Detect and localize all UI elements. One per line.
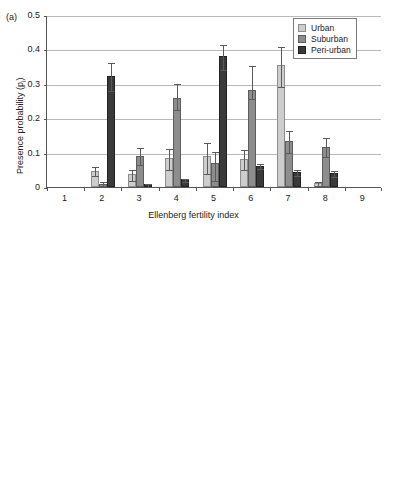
error-bar-cap-bottom xyxy=(166,170,173,171)
error-bar-cap-bottom xyxy=(249,99,256,100)
error-bar-cap-bottom xyxy=(108,91,115,92)
error-bar-cap-bottom xyxy=(278,87,285,88)
error-bar-cap-bottom xyxy=(174,110,181,111)
x-axis-title: Ellenberg fertility index xyxy=(0,210,361,220)
error-bar-cap-top xyxy=(182,179,189,180)
y-tick-mark xyxy=(44,50,47,51)
x-tick-mark xyxy=(381,188,382,191)
x-tick-label: 3 xyxy=(127,193,151,203)
legend-swatch-urban-icon xyxy=(298,24,306,32)
error-bar xyxy=(326,138,327,157)
x-tick-label: 7 xyxy=(276,193,300,203)
legend-label: Suburban xyxy=(311,34,348,44)
x-tick-mark xyxy=(345,188,346,191)
bar-periurban xyxy=(219,56,227,187)
error-bar xyxy=(169,149,170,170)
error-bar-cap-top xyxy=(323,138,330,139)
legend-item-periurban: Peri-urban xyxy=(298,44,351,55)
error-bar-cap-top xyxy=(145,184,152,185)
error-bar-cap-bottom xyxy=(294,176,301,177)
error-bar xyxy=(207,143,208,173)
error-bar-cap-bottom xyxy=(331,177,338,178)
error-bar xyxy=(111,63,112,91)
error-bar-cap-bottom xyxy=(212,181,219,182)
error-bar-cap-bottom xyxy=(257,169,264,170)
x-tick-mark xyxy=(308,188,309,191)
error-bar-cap-bottom xyxy=(145,187,152,188)
error-bar-cap-bottom xyxy=(204,174,211,175)
y-tick-mark xyxy=(44,119,47,120)
gridline xyxy=(47,85,381,86)
legend-label: Urban xyxy=(311,23,334,33)
error-bar xyxy=(244,150,245,170)
error-bar xyxy=(215,152,216,181)
y-tick-label: 0.4 xyxy=(14,44,40,54)
x-tick-mark xyxy=(233,188,234,191)
error-bar xyxy=(281,47,282,87)
error-bar-cap-top xyxy=(129,170,136,171)
error-bar-cap-top xyxy=(108,63,115,64)
error-bar xyxy=(177,84,178,110)
y-tick-label: 0.2 xyxy=(14,113,40,123)
error-bar xyxy=(252,66,253,99)
error-bar xyxy=(289,131,290,153)
bar-suburban xyxy=(173,98,181,187)
error-bar xyxy=(223,45,224,69)
x-tick-label: 9 xyxy=(350,193,374,203)
error-bar-cap-top xyxy=(249,66,256,67)
x-tick-mark xyxy=(270,188,271,191)
legend-swatch-periurban-icon xyxy=(298,46,306,54)
x-tick-mark xyxy=(121,188,122,191)
x-tick-mark xyxy=(47,188,48,191)
error-bar-cap-top xyxy=(315,182,322,183)
gridline xyxy=(47,16,381,17)
bar-suburban xyxy=(248,90,256,187)
x-tick-mark xyxy=(84,188,85,191)
error-bar-cap-top xyxy=(212,152,219,153)
y-tick-mark xyxy=(44,85,47,86)
error-bar-cap-top xyxy=(137,148,144,149)
x-tick-label: 6 xyxy=(239,193,263,203)
legend-item-urban: Urban xyxy=(298,22,351,33)
error-bar xyxy=(140,148,141,165)
y-tick-mark xyxy=(44,16,47,17)
y-tick-label: 0.1 xyxy=(14,148,40,158)
figure-root: (a)Presence probability (pi)0.50.40.30.2… xyxy=(0,0,397,496)
error-bar-cap-bottom xyxy=(137,165,144,166)
error-bar-cap-top xyxy=(294,170,301,171)
error-bar-cap-top xyxy=(220,45,227,46)
error-bar xyxy=(132,170,133,181)
chart-legend: UrbanSuburbanPeri-urban xyxy=(293,18,357,59)
error-bar-cap-bottom xyxy=(100,187,107,188)
x-tick-mark xyxy=(196,188,197,191)
error-bar-cap-top xyxy=(100,182,107,183)
error-bar-cap-bottom xyxy=(220,70,227,71)
x-tick-label: 4 xyxy=(164,193,188,203)
error-bar-cap-bottom xyxy=(323,157,330,158)
error-bar-cap-top xyxy=(174,84,181,85)
legend-label: Peri-urban xyxy=(311,45,351,55)
error-bar-cap-bottom xyxy=(92,176,99,177)
legend-item-suburban: Suburban xyxy=(298,33,351,44)
error-bar xyxy=(95,167,96,176)
bar-periurban xyxy=(107,76,115,187)
error-bar-cap-top xyxy=(166,149,173,150)
error-bar-cap-bottom xyxy=(129,181,136,182)
error-bar-cap-top xyxy=(92,167,99,168)
x-tick-label: 8 xyxy=(313,193,337,203)
error-bar-cap-top xyxy=(286,131,293,132)
y-tick-label: 0.5 xyxy=(14,10,40,20)
legend-swatch-suburban-icon xyxy=(298,35,306,43)
x-tick-mark xyxy=(159,188,160,191)
gridline xyxy=(47,119,381,120)
y-axis-title: Presence probability (pi) xyxy=(15,77,27,174)
error-bar-cap-bottom xyxy=(315,186,322,187)
x-tick-label: 1 xyxy=(53,193,77,203)
error-bar-cap-top xyxy=(278,47,285,48)
error-bar-cap-bottom xyxy=(286,153,293,154)
x-tick-label: 2 xyxy=(90,193,114,203)
error-bar-cap-top xyxy=(204,143,211,144)
y-tick-label: 0 xyxy=(14,182,40,192)
x-tick-label: 5 xyxy=(202,193,226,203)
error-bar-cap-top xyxy=(241,150,248,151)
